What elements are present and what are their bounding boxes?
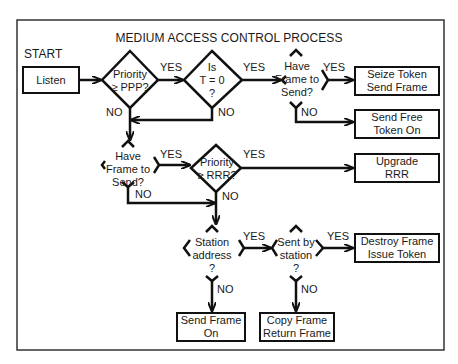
decision-priority-rrr: Priority≥ RRR? [192,156,242,182]
edge-label-yes: YES [160,61,182,73]
process-copy-frame-label: Copy FrameReturn Frame [263,314,331,340]
edge-label-yes: YES [243,148,265,160]
edge-label-no: NO [106,106,123,118]
process-copy-frame: Copy FrameReturn Frame [259,312,335,342]
edge-label-yes: YES [323,61,345,73]
process-send-free-token: Send FreeToken On [354,109,440,139]
edge-label-yes: YES [243,230,265,242]
edge-label-no: NO [135,188,152,200]
decision-is-t0: IsT = 0? [186,61,238,100]
process-seize-token-label: Seize TokenSend Frame [367,68,428,94]
decision-station-address: Stationaddress? [188,236,236,275]
diagram-title: MEDIUM ACCESS CONTROL PROCESS [0,31,458,45]
decision-have-frame-2: HaveFrame toSend? [102,150,154,189]
process-send-frame-on-label: Send FrameOn [181,314,242,340]
edge-label-no: NO [301,283,318,295]
start-label: START [24,47,62,61]
edge-label-no: NO [222,190,239,202]
decision-sent-by-station: Sent bystation? [274,236,318,275]
decision-have-frame-1: HaveFrame toSend? [272,60,322,99]
edge-label-no: NO [217,283,234,295]
process-send-frame-on: Send FrameOn [176,312,246,342]
edge-label-no: NO [218,106,235,118]
process-listen: Listen [22,66,80,94]
process-upgrade-rrr: UpgradeRRR [354,153,440,183]
decision-priority-ppp: Priority≥ PPP? [104,68,156,94]
process-send-free-token-label: Send FreeToken On [371,111,422,137]
process-destroy-frame: Destroy FrameIssue Token [354,233,440,263]
process-destroy-frame-label: Destroy FrameIssue Token [361,235,434,261]
edge-label-no: NO [301,106,318,118]
process-upgrade-rrr-label: UpgradeRRR [376,155,418,181]
edge-label-yes: YES [243,61,265,73]
process-listen-label: Listen [36,74,65,87]
edge-label-yes: YES [327,230,349,242]
process-seize-token: Seize TokenSend Frame [354,66,440,96]
edge-label-yes: YES [160,148,182,160]
